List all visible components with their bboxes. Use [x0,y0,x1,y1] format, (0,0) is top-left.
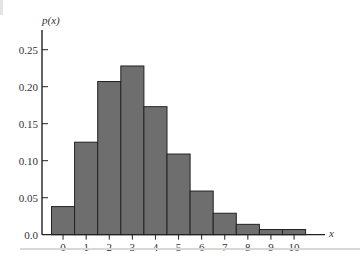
x-tick-label: 10 [289,241,301,253]
x-tick-label: 0 [60,241,66,253]
bar-4 [144,107,167,235]
y-tick-label: 0.0 [24,229,38,241]
bar-1 [75,142,98,235]
bar-6 [190,191,213,235]
bar-0 [52,207,75,235]
x-tick-label: 9 [268,241,274,253]
x-tick-label: 7 [222,241,228,253]
x-tick-label: 4 [153,241,159,253]
x-tick-label: 1 [83,241,89,253]
y-tick-label: 0.10 [19,155,39,167]
y-tick-label: 0.25 [19,44,39,56]
x-tick-label: 3 [130,241,136,253]
x-tick-label: 8 [245,241,251,253]
y-axis-label: p(x) [41,14,60,27]
bar-2 [98,82,121,235]
footer-rule [20,248,360,250]
bar-8 [236,224,259,234]
y-tick-label: 0.05 [19,192,39,204]
y-tick-label: 0.20 [19,81,39,93]
bar-7 [213,213,236,234]
x-tick-label: 5 [176,241,182,253]
bar-9 [259,230,282,235]
bar-5 [167,154,190,235]
y-tick-label: 0.15 [19,118,39,130]
bar-3 [121,66,144,235]
x-tick-label: 2 [107,241,113,253]
x-axis-label: x [328,227,334,239]
x-tick-label: 6 [199,241,205,253]
probability-histogram: 0.00.050.100.150.200.25012345678910p(x)x [0,0,360,269]
bar-10 [283,230,306,235]
